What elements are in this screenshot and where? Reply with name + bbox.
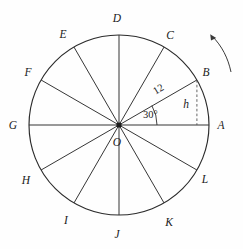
point-label-c: C bbox=[166, 29, 174, 41]
center-label-o: O bbox=[113, 136, 122, 148]
point-label-g: G bbox=[9, 119, 18, 131]
point-label-a: A bbox=[216, 119, 225, 131]
center-point-o bbox=[116, 122, 121, 127]
point-label-i: I bbox=[63, 214, 69, 226]
point-label-e: E bbox=[58, 28, 66, 40]
spoke-OK bbox=[119, 125, 164, 203]
geometry-figure: A B C D E F G H I J K L O 12 30° h bbox=[0, 0, 243, 249]
point-label-d: D bbox=[112, 12, 122, 24]
point-label-l: L bbox=[201, 173, 208, 185]
point-label-b: B bbox=[202, 66, 209, 78]
circle-diagram-canvas: A B C D E F G H I J K L O 12 30° h bbox=[0, 0, 243, 249]
radius-length-label: 12 bbox=[151, 82, 166, 97]
spoke-OL bbox=[119, 125, 197, 170]
height-label-h: h bbox=[183, 98, 189, 110]
point-label-h: H bbox=[21, 174, 31, 186]
spoke-OH bbox=[41, 125, 119, 170]
rotation-direction-arc bbox=[212, 36, 231, 72]
point-label-j: J bbox=[114, 228, 120, 240]
angle-label-30: 30° bbox=[143, 109, 158, 120]
spoke-OE bbox=[74, 47, 119, 125]
spoke-OF bbox=[41, 80, 119, 125]
point-label-f: F bbox=[23, 66, 32, 78]
point-label-k: K bbox=[164, 216, 174, 228]
